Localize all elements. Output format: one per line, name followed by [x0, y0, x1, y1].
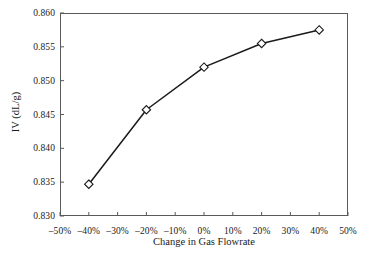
y-tick-label: 0.860 — [3, 8, 55, 18]
y-tick-label-wrap: 0.845 — [0, 110, 55, 120]
data-point-marker — [257, 39, 265, 47]
data-point-markers — [85, 26, 324, 189]
y-axis-title: IV (dL/g) — [10, 52, 22, 172]
x-tick-label: 50% — [339, 226, 357, 236]
y-tick-label-wrap: 0.840 — [0, 143, 55, 153]
x-axis-title: Change in Gas Flowrate — [60, 236, 348, 248]
data-point-marker — [315, 26, 323, 34]
y-tick-label-wrap: 0.855 — [0, 42, 55, 52]
y-tick-label-wrap: 0.835 — [0, 177, 55, 187]
y-tick-label: 0.855 — [3, 42, 55, 52]
x-tick-label: 0% — [198, 226, 211, 236]
chart-container: 0.8300.8350.8400.8450.8500.8550.860 –50%… — [0, 0, 374, 262]
y-tick-label: 0.835 — [3, 177, 55, 187]
x-axis-tick-marks — [60, 212, 348, 216]
y-tick-label-wrap: 0.850 — [0, 76, 55, 86]
y-tick-label-wrap: 0.860 — [0, 8, 55, 18]
y-axis-tick-marks — [60, 13, 64, 216]
data-series-line — [89, 30, 319, 184]
